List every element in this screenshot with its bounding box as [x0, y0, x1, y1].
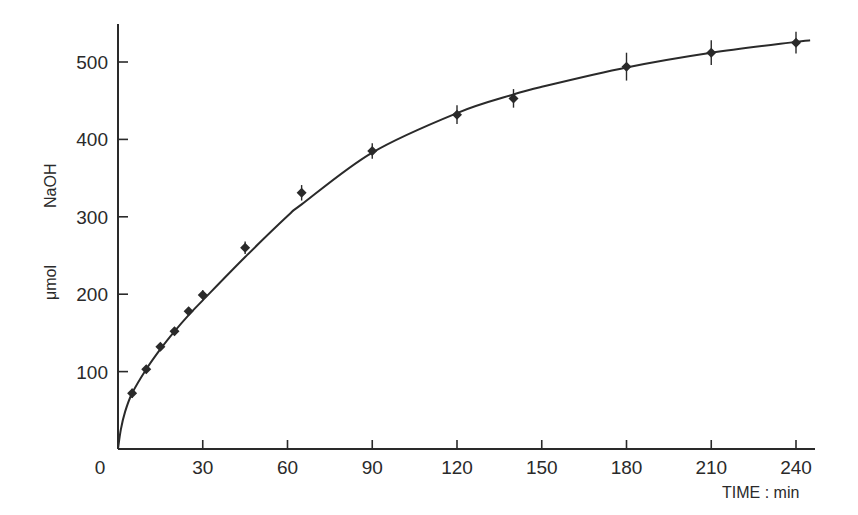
data-point [184, 306, 194, 316]
x-tick-label: 240 [780, 457, 812, 478]
y-tick-label: 100 [76, 362, 108, 383]
diamond-marker-icon [706, 48, 716, 58]
x-tick-label: 30 [192, 457, 213, 478]
fit-curve-path [118, 40, 810, 449]
diamond-marker-icon [622, 62, 632, 72]
x-tick-label: 210 [695, 457, 727, 478]
data-point [141, 364, 151, 374]
y-axis-title-unit: μmol [42, 265, 59, 300]
x-tick-label: 60 [277, 457, 298, 478]
fitted-curve [118, 40, 810, 449]
x-tick-label: 0 [95, 457, 106, 478]
diamond-marker-icon [127, 388, 137, 398]
x-tick-label: 180 [611, 457, 643, 478]
x-tick-label: 150 [526, 457, 558, 478]
diamond-marker-icon [141, 364, 151, 374]
y-tick-label: 300 [76, 207, 108, 228]
diamond-marker-icon [297, 188, 307, 198]
data-point [367, 143, 377, 158]
data-point [706, 40, 716, 65]
x-tick-label: 90 [362, 457, 383, 478]
y-tick-label: 400 [76, 129, 108, 150]
x-tick-label: 120 [441, 457, 473, 478]
data-points [127, 32, 801, 398]
diamond-marker-icon [198, 290, 208, 300]
axis-labels: TIME : min μmol NaOH [42, 164, 799, 501]
y-tick-label: 200 [76, 284, 108, 305]
data-point [127, 388, 137, 398]
data-point [452, 105, 462, 124]
data-point [297, 185, 307, 200]
chart-canvas: 0306090120150180210240100200300400500 TI… [0, 0, 858, 515]
data-point [240, 242, 250, 254]
x-axis-title: TIME : min [722, 484, 799, 501]
diamond-marker-icon [240, 243, 250, 253]
diamond-marker-icon [184, 306, 194, 316]
data-point [622, 53, 632, 81]
data-point [509, 89, 519, 108]
axes: 0306090120150180210240100200300400500 [76, 24, 815, 478]
diamond-marker-icon [791, 38, 801, 48]
data-point [791, 32, 801, 54]
data-point [198, 290, 208, 300]
y-axis-title-substance: NaOH [42, 164, 59, 208]
y-tick-label: 500 [76, 52, 108, 73]
